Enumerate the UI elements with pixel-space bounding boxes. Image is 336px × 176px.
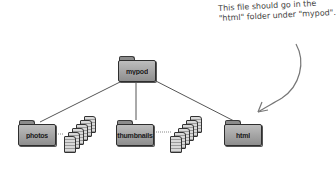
folder-thumbnails[interactable]: thumbnails (116, 120, 154, 146)
folder-label: mypod (126, 68, 148, 75)
folder-photos[interactable]: photos (18, 120, 56, 146)
folder-label: photos (26, 132, 48, 139)
folder-label: html (236, 132, 250, 139)
folder-mypod[interactable]: mypod (118, 56, 156, 82)
file-icon (170, 136, 182, 153)
folder-label: thumbnails (117, 132, 152, 139)
folder-html[interactable]: html (224, 120, 262, 146)
thumbnails-file-stack (166, 116, 210, 160)
photos-file-stack (60, 116, 104, 160)
file-icon (64, 136, 76, 153)
